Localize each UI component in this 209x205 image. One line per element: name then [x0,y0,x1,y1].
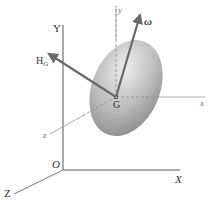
angular-velocity-label: ω [144,15,152,27]
mass-center-label: G [113,99,120,110]
body-z-label: z [42,130,47,140]
body-x-label: x [199,98,204,108]
fixed-z-axis [14,170,63,194]
angular-momentum-label: HG [36,55,48,68]
origin-label: O [52,158,60,170]
rigid-body-ellipsoid [76,29,177,147]
body-y-label: y [117,5,122,15]
fixed-y-label: Y [53,22,61,34]
fixed-z-label: Z [4,187,11,199]
body-z-axis-outside [50,115,84,134]
angular-momentum-label-main: H [36,55,43,66]
angular-momentum-label-sub: G [43,60,48,68]
rigid-body-diagram: Y O X Z y x z G ω HG [0,0,209,205]
fixed-x-label: X [174,173,183,185]
